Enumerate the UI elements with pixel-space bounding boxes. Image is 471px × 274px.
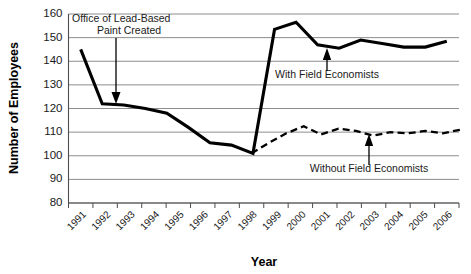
- chart-container: 1601501401301201101009080 19911992199319…: [0, 0, 471, 274]
- y-tick-label-100: 100: [43, 149, 62, 161]
- y-tick-label-160: 160: [43, 7, 62, 19]
- y-tick-label-80: 80: [50, 196, 63, 208]
- y-tick-label-130: 130: [43, 78, 62, 90]
- chart-background: [0, 0, 471, 274]
- y-tick-label-90: 90: [50, 172, 63, 184]
- y-tick-label-150: 150: [43, 31, 62, 43]
- annotation-office-created-line2: Paint Created: [97, 24, 161, 36]
- annotation-office-created-line1: Office of Lead-Based: [72, 12, 171, 24]
- y-tick-label-120: 120: [43, 102, 62, 114]
- y-tick-label-110: 110: [44, 125, 62, 137]
- line-chart-figure: 1601501401301201101009080 19911992199319…: [0, 0, 471, 274]
- y-tick-label-140: 140: [43, 54, 62, 66]
- x-axis-title: Year: [251, 255, 278, 269]
- y-axis-title: Number of Employees: [7, 42, 21, 174]
